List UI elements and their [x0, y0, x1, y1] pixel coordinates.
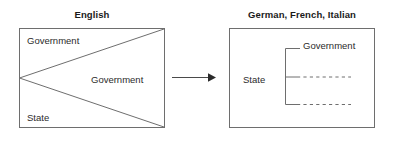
right-panel-title: German, French, Italian — [229, 9, 375, 20]
right-label-government: Government — [303, 41, 355, 51]
left-panel-title: English — [19, 9, 165, 20]
left-label-government-top: Government — [27, 36, 79, 46]
left-label-government-center: Government — [91, 75, 143, 85]
diagram-figure: English Government Government State Germ… — [0, 0, 394, 144]
left-label-state: State — [27, 113, 49, 123]
right-label-state: State — [243, 75, 265, 85]
